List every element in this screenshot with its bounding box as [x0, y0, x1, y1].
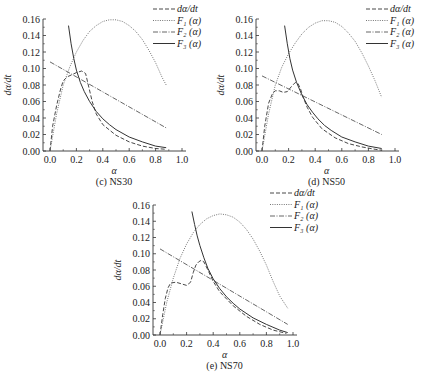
- x-tick-label: 0.0: [154, 338, 167, 349]
- figure-canvas: 0.000.020.040.060.080.100.120.140.160.00…: [0, 0, 433, 384]
- y-tick-label: 0.08: [236, 80, 254, 91]
- y-tick-label: 0.16: [23, 14, 41, 25]
- series-line-dashdot: [262, 76, 382, 135]
- y-tick-label: 0.12: [236, 47, 254, 58]
- series-line-dotted: [160, 214, 288, 335]
- series-line-dashdot: [160, 249, 288, 325]
- series-line-dashed: [262, 83, 382, 152]
- legend-label: F₂ (α): [176, 26, 202, 38]
- y-tick-label: 0.00: [236, 146, 254, 157]
- y-tick-label: 0.16: [133, 200, 151, 211]
- x-axis-title: α: [222, 349, 228, 360]
- x-tick-label: 0.0: [44, 154, 57, 165]
- x-tick-label: 0.4: [97, 154, 110, 165]
- y-tick-label: 0.06: [133, 281, 151, 292]
- legend-label: F₃ (α): [176, 38, 202, 50]
- y-tick-label: 0.10: [236, 63, 254, 74]
- y-tick-label: 0.00: [133, 330, 151, 341]
- y-tick-label: 0.08: [23, 80, 41, 91]
- x-tick-label: 1.0: [176, 154, 189, 165]
- y-tick-label: 0.10: [23, 63, 41, 74]
- legend-label: F₃ (α): [293, 222, 319, 234]
- series-line-dashdot: [50, 62, 166, 128]
- x-tick-label: 0.8: [149, 154, 162, 165]
- series-line-solid: [192, 212, 288, 333]
- panel-caption: (e) NS70: [206, 360, 242, 372]
- legend-label: F₃ (α): [389, 38, 415, 50]
- chart-panel-c-ns30: 0.000.020.040.060.080.100.120.140.160.00…: [2, 3, 202, 188]
- x-axis-title: α: [324, 165, 330, 176]
- y-tick-label: 0.04: [23, 113, 41, 124]
- x-tick-label: 1.0: [389, 154, 402, 165]
- y-tick-label: 0.12: [23, 47, 41, 58]
- x-tick-label: 0.2: [282, 154, 295, 165]
- x-tick-label: 0.4: [207, 338, 220, 349]
- legend-label: F₁ (α): [293, 199, 319, 211]
- y-tick-label: 0.10: [133, 248, 151, 259]
- y-tick-label: 0.12: [133, 232, 151, 243]
- x-tick-label: 1.0: [287, 338, 300, 349]
- x-tick-label: 0.6: [123, 154, 136, 165]
- legend-label: F₂ (α): [389, 26, 415, 38]
- legend-label: dα/dt: [294, 187, 315, 198]
- y-tick-label: 0.04: [133, 297, 151, 308]
- y-tick-label: 0.02: [23, 129, 41, 140]
- chart-panel-e-ns70: 0.000.020.040.060.080.100.120.140.160.00…: [112, 187, 319, 372]
- x-tick-label: 0.6: [336, 154, 349, 165]
- y-tick-label: 0.00: [23, 146, 41, 157]
- x-tick-label: 0.2: [180, 338, 193, 349]
- y-tick-label: 0.14: [236, 30, 254, 41]
- x-tick-label: 0.4: [309, 154, 322, 165]
- y-tick-label: 0.16: [236, 14, 254, 25]
- x-tick-label: 0.8: [362, 154, 375, 165]
- series-line-dotted: [262, 21, 382, 151]
- y-axis-title: dα/dt: [2, 74, 13, 95]
- y-tick-label: 0.06: [23, 96, 41, 107]
- legend-label: F₁ (α): [389, 15, 415, 27]
- x-axis-title: α: [111, 165, 117, 176]
- y-tick-label: 0.02: [236, 129, 254, 140]
- y-axis-title: dα/dt: [215, 74, 226, 95]
- series-line-solid: [69, 26, 167, 148]
- series-line-dotted: [50, 20, 166, 151]
- x-tick-label: 0.2: [70, 154, 83, 165]
- legend-label: dα/dt: [390, 3, 411, 14]
- y-axis-title: dα/dt: [112, 259, 123, 280]
- series-line-dashed: [160, 260, 286, 335]
- legend-label: F₁ (α): [176, 15, 202, 27]
- y-tick-label: 0.04: [236, 113, 254, 124]
- x-tick-label: 0.6: [234, 338, 247, 349]
- chart-panel-d-ns50: 0.000.020.040.060.080.100.120.140.160.00…: [215, 3, 415, 188]
- series-line-dashed: [50, 71, 166, 151]
- y-tick-label: 0.02: [133, 313, 151, 324]
- legend-label: dα/dt: [177, 3, 198, 14]
- x-tick-label: 0.0: [256, 154, 269, 165]
- y-tick-label: 0.14: [23, 30, 41, 41]
- y-tick-label: 0.06: [236, 96, 254, 107]
- panel-caption: (c) NS30: [96, 176, 132, 188]
- x-tick-label: 0.8: [260, 338, 273, 349]
- y-tick-label: 0.14: [133, 216, 151, 227]
- y-tick-label: 0.08: [133, 265, 151, 276]
- legend-label: F₂ (α): [293, 210, 319, 222]
